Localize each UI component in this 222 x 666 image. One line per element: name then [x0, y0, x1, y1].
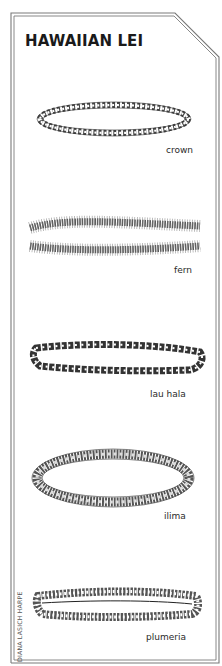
artist-credit: DIANA LASICH HARPE: [16, 591, 23, 662]
page-title: HAWAIIAN LEI: [25, 32, 143, 50]
crown-lei-illustration: [34, 98, 194, 140]
lau-hala-lei-illustration: [28, 336, 208, 378]
plumeria-lei-illustration: [32, 584, 202, 624]
fern-label: fern: [174, 265, 192, 275]
ilima-lei-illustration: [28, 444, 198, 512]
fern-lei-illustration: [24, 208, 206, 264]
ilima-label: ilima: [164, 511, 186, 521]
plumeria-label: plumeria: [146, 632, 186, 642]
lau-hala-label: lau hala: [150, 389, 186, 399]
crown-label: crown: [166, 145, 193, 155]
